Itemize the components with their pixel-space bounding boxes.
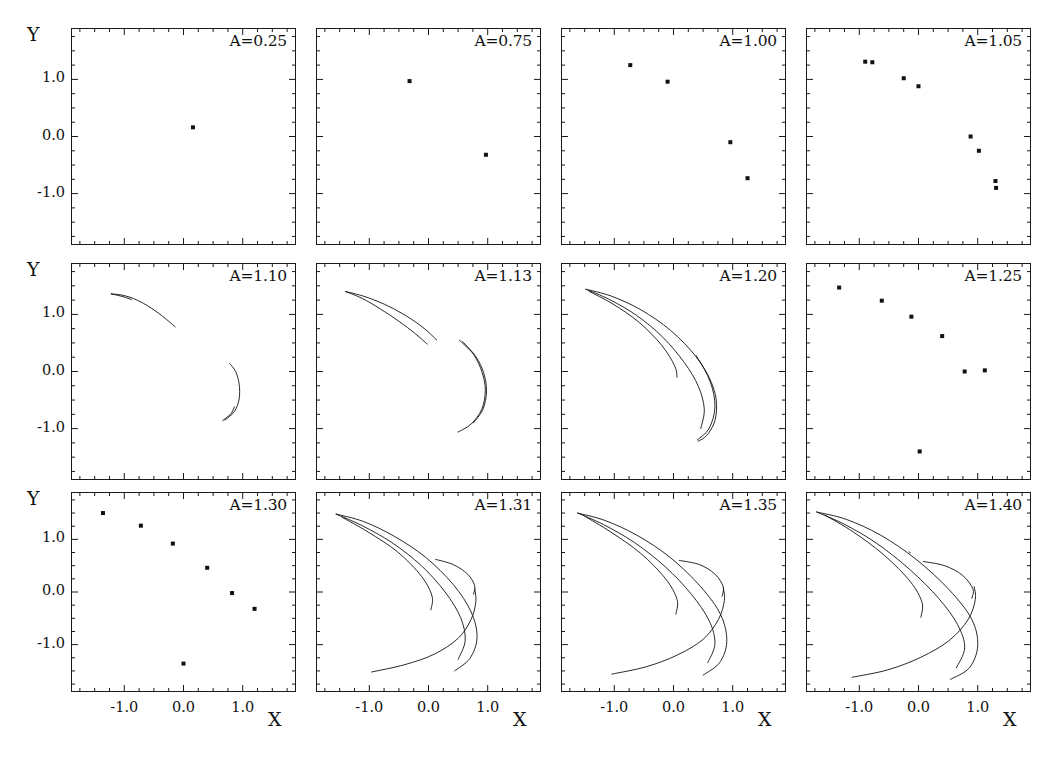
x-axis-title: X: [268, 708, 282, 730]
y-tick-label: 0.0: [9, 127, 65, 143]
panel-A-1-25: A=1.25: [806, 263, 1031, 480]
y-tick-label: -1.0: [9, 635, 65, 651]
panel-A-1-13: A=1.13: [316, 263, 541, 480]
x-tick-label: 1.0: [460, 699, 516, 715]
attractor-plot: [316, 263, 541, 480]
panel-A-1-35: A=1.35: [561, 492, 786, 692]
x-tick-label: 0.0: [646, 699, 702, 715]
attractor-plot: [71, 492, 296, 692]
x-tick-label: -1.0: [831, 699, 887, 715]
panel-A-1-31: A=1.31: [316, 492, 541, 692]
y-tick-label: -1.0: [9, 419, 65, 435]
x-tick-label: 1.0: [950, 699, 1006, 715]
x-tick-label: 0.0: [156, 699, 212, 715]
x-tick-label: 0.0: [401, 699, 457, 715]
attractor-plot: [316, 28, 541, 245]
panel-A-1-05: A=1.05: [806, 28, 1031, 245]
y-axis-title: Y: [27, 23, 40, 45]
panel-parameter-label: A=1.31: [475, 496, 533, 514]
y-axis-title: Y: [27, 487, 40, 509]
panel-parameter-label: A=0.75: [475, 32, 533, 50]
y-tick-label: 1.0: [9, 69, 65, 85]
attractor-plot: [561, 492, 786, 692]
x-tick-label: -1.0: [96, 699, 152, 715]
attractor-plot: [71, 28, 296, 245]
x-tick-label: 1.0: [705, 699, 761, 715]
panel-A-1: A=1.00: [561, 28, 786, 245]
attractor-plot: [806, 28, 1031, 245]
y-tick-label: 1.0: [9, 529, 65, 545]
x-tick-label: 0.0: [891, 699, 947, 715]
panel-A-1-4: A=1.40: [806, 492, 1031, 692]
attractor-plot: [561, 263, 786, 480]
panel-A-0-25: A=0.25: [71, 28, 296, 245]
x-axis-title: X: [513, 708, 527, 730]
panel-parameter-label: A=1.05: [965, 32, 1023, 50]
panel-parameter-label: A=1.25: [965, 267, 1023, 285]
panel-parameter-label: A=1.13: [475, 267, 533, 285]
panel-parameter-label: A=1.10: [230, 267, 288, 285]
panel-parameter-label: A=0.25: [230, 32, 288, 50]
y-tick-label: -1.0: [9, 184, 65, 200]
y-tick-label: 0.0: [9, 582, 65, 598]
attractor-plot: [561, 28, 786, 245]
panel-parameter-label: A=1.40: [965, 496, 1023, 514]
x-axis-title: X: [758, 708, 772, 730]
x-axis-title: X: [1003, 708, 1017, 730]
attractor-plot: [316, 492, 541, 692]
panel-parameter-label: A=1.30: [230, 496, 288, 514]
henon-attractor-figure: A=0.25A=0.75A=1.00A=1.05A=1.10A=1.13A=1.…: [0, 0, 1050, 766]
panel-parameter-label: A=1.35: [720, 496, 778, 514]
panel-A-1-3: A=1.30: [71, 492, 296, 692]
x-tick-label: 1.0: [215, 699, 271, 715]
panel-parameter-label: A=1.00: [720, 32, 778, 50]
panel-A-1-1: A=1.10: [71, 263, 296, 480]
attractor-plot: [806, 492, 1031, 692]
y-axis-title: Y: [27, 258, 40, 280]
panel-parameter-label: A=1.20: [720, 267, 778, 285]
panel-A-0-75: A=0.75: [316, 28, 541, 245]
y-tick-label: 0.0: [9, 362, 65, 378]
x-tick-label: -1.0: [586, 699, 642, 715]
attractor-plot: [806, 263, 1031, 480]
y-tick-label: 1.0: [9, 304, 65, 320]
x-tick-label: -1.0: [341, 699, 397, 715]
panel-A-1-2: A=1.20: [561, 263, 786, 480]
attractor-plot: [71, 263, 296, 480]
